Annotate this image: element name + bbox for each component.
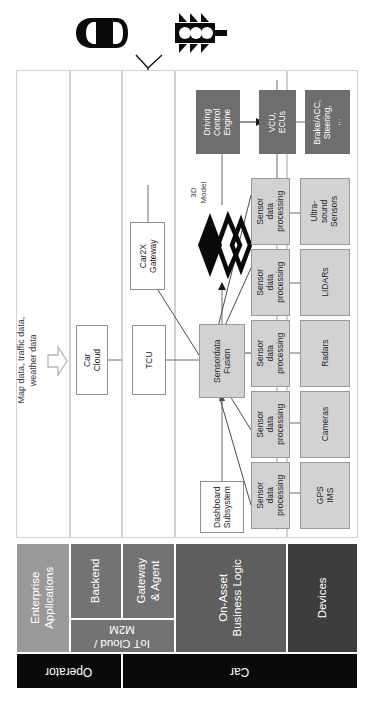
actuators-line1: Brake/ACC, <box>312 100 322 145</box>
external-data-note: Map data, traffic data, weather data <box>10 280 44 440</box>
label-3d-model: 3D Model <box>180 172 218 214</box>
layer-3-line2: M2M <box>94 622 150 636</box>
layer-0-line2: Applications <box>43 567 57 629</box>
sdp-line3: processing <box>276 404 286 445</box>
layer-1-line1: Backend <box>89 559 103 604</box>
lane-backend <box>70 70 122 538</box>
3d-model-chevrons-icon <box>196 205 252 285</box>
actuators-line3: ... <box>333 100 343 145</box>
band-devices: Devices <box>287 543 358 653</box>
box-car2x-gateway[interactable]: Car2X Gateway <box>130 222 165 290</box>
sdp-line1: Sensor <box>255 475 265 516</box>
sensor-0-line3: Sensors <box>330 196 340 227</box>
sdp-line3: processing <box>276 191 286 232</box>
dce-line2: Control <box>213 108 223 135</box>
sdp-line1: Sensor <box>255 262 265 303</box>
dashboard-line1: Dashboard <box>212 486 222 528</box>
model3d-line2: Model <box>199 182 209 204</box>
sensor-0-line2: sound <box>320 196 330 227</box>
box-sensor-cameras[interactable]: Cameras <box>300 391 350 458</box>
box-dashboard-subsystem[interactable]: Dashboard Subsystem <box>200 481 244 533</box>
band-backend: Backend <box>70 543 122 619</box>
owner-1-label: Car <box>230 664 249 678</box>
layer-0-line1: Enterprise <box>29 567 43 629</box>
box-sensor-data-processing[interactable]: Sensor data processing <box>251 178 290 245</box>
box-sensor-lidars[interactable]: LIDARs <box>300 249 350 316</box>
sdp-line2: data <box>265 333 275 374</box>
external-data-line1: Map data, traffic data, <box>15 317 27 404</box>
sensordata-fusion-line2: Fusion <box>222 339 232 382</box>
traffic-light-icon <box>171 10 229 56</box>
sensor-3-line1: Cameras <box>320 407 330 441</box>
sdp-line2: data <box>265 262 275 303</box>
sdp-line1: Sensor <box>255 404 265 445</box>
box-car-cloud[interactable]: Car Cloud <box>76 325 108 395</box>
sdp-line3: processing <box>276 262 286 303</box>
vcu-line2: ECUs <box>277 111 287 133</box>
layer-4-line2: Business Logic <box>231 559 245 636</box>
car2x-line1: Car2X <box>137 239 147 273</box>
box-sensor-ultrasound[interactable]: Ultra- sound Sensors <box>300 178 350 245</box>
car-cloud-line2: Cloud <box>92 349 102 371</box>
dce-line1: Driving <box>203 108 213 135</box>
owner-0-label: Operator <box>45 664 92 678</box>
car-top-view-icon <box>72 14 132 52</box>
sensordata-fusion-line1: Sensordata <box>212 339 222 382</box>
tcu-line1: TCU <box>144 351 154 368</box>
model3d-line1: 3D <box>189 182 199 204</box>
box-sensor-gps-ims[interactable]: GPS IMS <box>300 462 350 529</box>
external-data-line2: weather data <box>27 317 39 404</box>
box-sensor-data-processing[interactable]: Sensor data processing <box>251 249 290 316</box>
layer-5-line1: Devices <box>316 578 330 619</box>
box-sensordata-fusion[interactable]: Sensordata Fusion <box>199 324 245 398</box>
sdp-line2: data <box>265 191 275 232</box>
box-driving-control-engine[interactable]: Driving Control Engine <box>196 90 240 154</box>
sdp-line1: Sensor <box>255 191 265 232</box>
box-sensor-data-processing[interactable]: Sensor data processing <box>251 462 290 529</box>
box-vcu-ecus[interactable]: VCU, ECUs <box>259 90 296 154</box>
dce-line3: Engine <box>223 108 233 135</box>
car2x-line2: Gateway <box>148 239 158 273</box>
band-on-asset-business-logic: On-Asset Business Logic <box>175 543 287 653</box>
box-actuators[interactable]: Brake/ACC, Steering, ... <box>305 90 350 154</box>
box-sensor-radars[interactable]: Radars <box>300 320 350 387</box>
band-enterprise-applications: Enterprise Applications <box>16 543 70 653</box>
layer-2-line2: & Agent <box>148 558 162 603</box>
band-gateway-agent: Gateway & Agent <box>122 543 175 619</box>
actuators-line2: Steering, <box>322 100 332 145</box>
layer-3-line1: IoT Cloud / <box>94 636 150 650</box>
car-cloud-line1: Car <box>82 349 92 371</box>
sdp-line3: processing <box>276 475 286 516</box>
layer-2-line1: Gateway <box>135 558 149 603</box>
box-sensor-data-processing[interactable]: Sensor data processing <box>251 320 290 387</box>
sensor-0-line1: Ultra- <box>310 196 320 227</box>
box-tcu[interactable]: TCU <box>132 325 166 395</box>
layer-4-line1: On-Asset <box>217 559 231 636</box>
band-owner-car: Car <box>122 653 358 689</box>
sensor-4-line2: IMS <box>325 487 335 505</box>
sensor-2-line1: Radars <box>320 340 330 367</box>
diagram-canvas: Map data, traffic data, weather data Car… <box>0 0 375 702</box>
vcu-line1: VCU, <box>267 111 277 133</box>
band-iot-cloud-m2m: IoT Cloud / M2M <box>70 619 175 653</box>
band-owner-operator: Operator <box>16 653 122 689</box>
block-arrow-icon <box>46 345 68 377</box>
sdp-line1: Sensor <box>255 333 265 374</box>
sdp-line3: processing <box>276 333 286 374</box>
sensor-4-line1: GPS <box>315 487 325 505</box>
box-sensor-data-processing[interactable]: Sensor data processing <box>251 391 290 458</box>
lane-gateway-agent <box>122 70 175 538</box>
sensor-1-line1: LIDARs <box>320 268 330 297</box>
dashboard-line2: Subsystem <box>222 486 232 528</box>
sdp-line2: data <box>265 404 275 445</box>
sdp-line2: data <box>265 475 275 516</box>
